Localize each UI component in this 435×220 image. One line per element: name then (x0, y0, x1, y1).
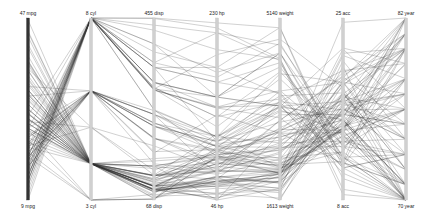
axis-bar-hp[interactable] (216, 18, 219, 200)
axis-bottom-label-disp: 68 disp (146, 203, 162, 209)
axis-bottom-label-cyl: 3 cyl (86, 203, 96, 209)
axis-bar-disp[interactable] (153, 18, 156, 200)
axis-bar-acc[interactable] (342, 18, 345, 200)
axis-top-label-cyl: 8 cyl (86, 10, 96, 16)
axis-top-label-mpg: 47 mpg (20, 10, 37, 16)
axis-bar-year[interactable] (405, 18, 408, 200)
axis-top-label-year: 82 year (398, 10, 415, 16)
parallel-coordinates-chart: 47 mpg9 mpg8 cyl3 cyl455 disp68 disp230 … (0, 0, 435, 220)
axis-cyl[interactable]: 8 cyl3 cyl (86, 10, 96, 209)
axis-bar-weight[interactable] (279, 18, 282, 200)
axis-top-label-disp: 455 disp (145, 10, 164, 16)
axis-bottom-label-year: 70 year (398, 203, 415, 209)
axis-top-label-weight: 5140 weight (267, 10, 295, 16)
axis-bar-cyl[interactable] (90, 18, 93, 200)
axis-bottom-label-acc: 8 acc (337, 203, 349, 209)
axis-mpg[interactable]: 47 mpg9 mpg (20, 10, 37, 209)
axis-bottom-label-mpg: 9 mpg (21, 203, 35, 209)
axis-top-label-acc: 25 acc (336, 10, 351, 16)
axis-top-label-hp: 230 hp (209, 10, 225, 16)
axis-bar-mpg[interactable] (27, 18, 30, 200)
axis-bottom-label-weight: 1613 weight (267, 203, 295, 209)
axis-bottom-label-hp: 46 hp (211, 203, 224, 209)
